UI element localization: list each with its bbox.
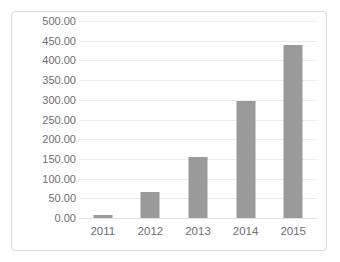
x-axis-tick-label: 2013 bbox=[185, 224, 211, 238]
gridline bbox=[79, 218, 317, 219]
bar-slot bbox=[174, 21, 222, 218]
y-axis-tick-label: 50.00 bbox=[14, 193, 76, 204]
bar-chart-figure: 0.0050.00100.00150.00200.00250.00300.003… bbox=[0, 0, 340, 262]
bar[interactable] bbox=[236, 101, 255, 218]
bar-slot bbox=[222, 21, 270, 218]
x-axis-tick-label: 2011 bbox=[90, 224, 115, 238]
x-axis-tick-label: 2012 bbox=[138, 224, 164, 238]
bar-slot bbox=[269, 21, 317, 218]
chart-title-clipped bbox=[0, 0, 340, 7]
x-axis: 20112012201320142015 bbox=[79, 224, 317, 240]
y-axis-tick-label: 0.00 bbox=[14, 213, 76, 224]
x-axis-tick-label: 2014 bbox=[233, 224, 259, 238]
y-axis: 0.0050.00100.00150.00200.00250.00300.003… bbox=[14, 21, 76, 218]
bar-slot bbox=[127, 21, 175, 218]
y-axis-tick-label: 450.00 bbox=[14, 35, 76, 46]
y-axis-tick-label: 400.00 bbox=[14, 55, 76, 66]
y-axis-tick-label: 350.00 bbox=[14, 75, 76, 86]
y-axis-tick-label: 500.00 bbox=[14, 16, 76, 27]
bar-series bbox=[79, 21, 317, 218]
y-axis-tick-label: 250.00 bbox=[14, 114, 76, 125]
x-axis-tick-label: 2015 bbox=[280, 224, 306, 238]
y-axis-tick-label: 150.00 bbox=[14, 153, 76, 164]
bar-slot bbox=[79, 21, 127, 218]
bar[interactable] bbox=[188, 157, 207, 218]
y-axis-tick-label: 300.00 bbox=[14, 94, 76, 105]
bar[interactable] bbox=[141, 192, 160, 218]
bar[interactable] bbox=[93, 215, 112, 218]
y-axis-tick-label: 200.00 bbox=[14, 134, 76, 145]
plot-area bbox=[79, 21, 317, 218]
y-axis-tick-label: 100.00 bbox=[14, 173, 76, 184]
bar[interactable] bbox=[284, 45, 303, 218]
